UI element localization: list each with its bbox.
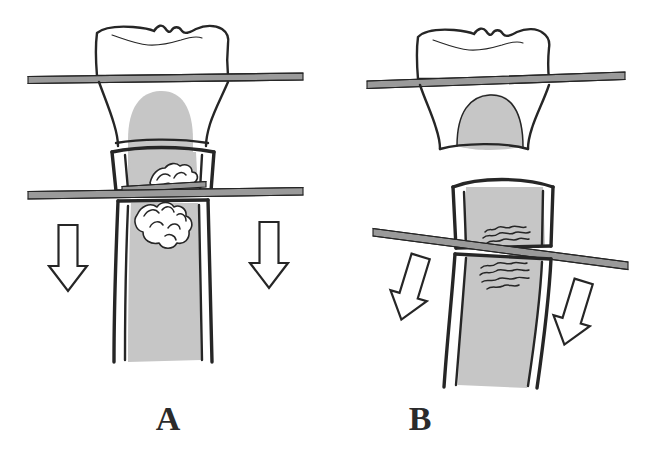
panel-b-cervical-segment	[420, 85, 549, 150]
dental-illustration-svg: A	[0, 0, 656, 463]
panel-a-root-lower	[114, 200, 212, 362]
panel-b-root-fragment-upper	[453, 180, 553, 249]
panel-a-force-arrow-right	[250, 222, 288, 288]
panel-b: B	[367, 29, 628, 437]
panel-a-force-arrow-left	[49, 225, 87, 291]
figure-root: A	[0, 0, 656, 463]
panel-b-root-lower	[444, 254, 551, 388]
panel-a: A	[28, 26, 303, 437]
panel-b-crown	[417, 29, 549, 79]
panel-a-elevator-wire-upper	[28, 73, 303, 84]
panel-a-elevator-wire-lower	[28, 182, 303, 200]
panel-a-crown	[96, 26, 228, 76]
panel-a-label: A	[156, 400, 181, 437]
panel-b-label: B	[409, 400, 432, 437]
panel-b-force-arrow-left	[383, 251, 439, 325]
panel-b-force-arrow-right	[546, 276, 602, 350]
